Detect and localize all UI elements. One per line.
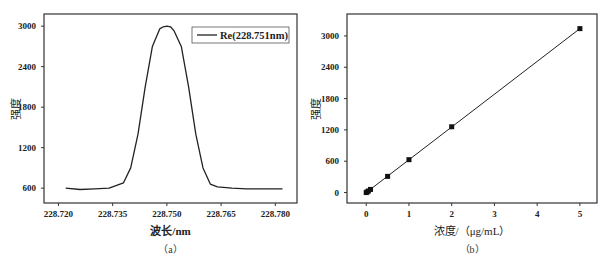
chart-b-panel: 01234506001200180024003000浓度/（μg/mL）强度（b… — [304, 0, 608, 260]
x-tick-label: 4 — [535, 209, 540, 219]
fit-line — [366, 29, 580, 193]
x-tick-label: 2 — [449, 209, 454, 219]
chart-a-spectrum: 228.720228.735228.750228.765228.78060012… — [0, 0, 304, 260]
x-tick-label: 228.780 — [261, 209, 291, 219]
y-axis-label: 强度 — [9, 98, 22, 120]
x-axis-label: 浓度/（μg/mL） — [434, 224, 511, 237]
y-tick-label: 2400 — [18, 62, 37, 72]
x-axis-label: 波长/nm — [150, 224, 190, 237]
x-tick-label: 3 — [492, 209, 497, 219]
y-tick-label: 3000 — [321, 31, 340, 41]
data-point-marker — [385, 174, 390, 179]
x-tick-label: 1 — [407, 209, 412, 219]
y-tick-label: 600 — [23, 183, 37, 193]
x-tick-label: 228.765 — [206, 209, 236, 219]
x-tick-label: 228.735 — [98, 209, 128, 219]
y-axis-label: 强度 — [309, 98, 322, 120]
figure-caption: （b） — [460, 244, 485, 255]
data-point-marker — [406, 157, 411, 162]
data-point-marker — [577, 26, 582, 31]
y-tick-label: 1200 — [18, 143, 37, 153]
y-tick-label: 3000 — [18, 21, 37, 31]
y-tick-label: 2400 — [321, 62, 340, 72]
y-tick-label: 0 — [335, 188, 340, 198]
x-tick-label: 0 — [364, 209, 369, 219]
y-tick-label: 1800 — [321, 94, 340, 104]
x-tick-label: 5 — [578, 209, 583, 219]
data-point-marker — [449, 124, 454, 129]
y-tick-label: 600 — [326, 156, 340, 166]
x-tick-label: 228.750 — [152, 209, 182, 219]
figure-caption: （a） — [158, 244, 182, 255]
plot-frame — [347, 14, 597, 203]
y-tick-label: 1200 — [321, 125, 340, 135]
legend-label: Re(228.751nm) — [220, 30, 288, 42]
chart-b-calibration: 01234506001200180024003000浓度/（μg/mL）强度（b… — [304, 0, 608, 260]
x-tick-label: 228.720 — [44, 209, 74, 219]
data-point-marker — [368, 187, 373, 192]
spectrum-line — [66, 26, 283, 189]
chart-a-panel: 228.720228.735228.750228.765228.78060012… — [0, 0, 304, 260]
